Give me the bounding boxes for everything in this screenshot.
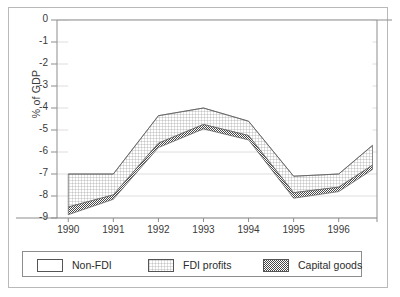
y-tick-label: -1 <box>22 35 48 46</box>
y-tick-label: -8 <box>22 189 48 200</box>
x-tick-label: 1995 <box>271 224 317 235</box>
area-band-non-fdi <box>68 20 372 176</box>
legend-swatch-fdi-profits <box>148 259 174 272</box>
y-tick-label: -5 <box>22 123 48 134</box>
x-tick-label: 1990 <box>45 224 91 235</box>
y-tick-label: -3 <box>22 79 48 90</box>
y-tick-label: 0 <box>22 13 48 24</box>
legend-label-capital-goods: Capital goods <box>298 259 362 271</box>
y-tick-label: -7 <box>22 167 48 178</box>
x-tick-label: 1992 <box>135 224 181 235</box>
legend-item-capital-goods: Capital goods <box>263 257 362 273</box>
x-tick-label: 1996 <box>316 224 362 235</box>
legend-swatch-non-fdi <box>37 259 63 272</box>
legend-item-fdi-profits: FDI profits <box>148 257 231 273</box>
y-tick-label: -9 <box>22 211 48 222</box>
legend-label-non-fdi: Non-FDI <box>72 259 112 271</box>
chart-legend: Non-FDI FDI profits Capital goods <box>22 251 362 277</box>
y-axis-title: % of GDP <box>30 34 42 154</box>
y-tick-label: -4 <box>22 101 48 112</box>
x-tick-label: 1993 <box>180 224 226 235</box>
legend-item-non-fdi: Non-FDI <box>37 257 112 273</box>
chart-figure: % of GDP 0-1-2-3-4-5-6-7-8-9 19901991199… <box>0 0 400 297</box>
y-tick-label: -6 <box>22 145 48 156</box>
stacked-bands <box>68 20 372 215</box>
x-tick-label: 1994 <box>226 224 272 235</box>
y-tick-label: -2 <box>22 57 48 68</box>
legend-label-fdi-profits: FDI profits <box>183 259 231 271</box>
x-tick-label: 1991 <box>90 224 136 235</box>
legend-swatch-capital-goods <box>263 259 289 272</box>
